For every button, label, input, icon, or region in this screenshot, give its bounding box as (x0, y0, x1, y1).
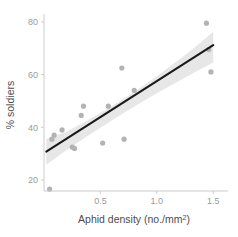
y-axis-tick-label: 40 (28, 123, 38, 133)
data-point (79, 113, 84, 118)
x-axis-tick-label: 1.0 (151, 196, 164, 206)
data-point (59, 127, 64, 132)
plot-background (0, 0, 238, 237)
x-axis-tick-label: 1.5 (207, 196, 220, 206)
data-point (121, 137, 126, 142)
data-point (106, 104, 111, 109)
data-point (72, 146, 77, 151)
data-point (208, 69, 213, 74)
data-point (81, 104, 86, 109)
y-axis-title: % soldiers (4, 81, 16, 129)
x-axis-title-base: Aphid density (no./mm (78, 213, 183, 225)
y-axis-tick-label: 20 (28, 175, 38, 185)
data-point (119, 65, 124, 70)
chart-canvas: 20406080 0.51.01.5 % soldiers Aphid dens… (0, 0, 238, 237)
x-axis-title-tail: ) (186, 213, 190, 225)
data-point (132, 88, 137, 93)
y-axis-tick-label: 60 (28, 70, 38, 80)
y-axis-tick-label: 80 (28, 17, 38, 27)
scatter-plot-figure: 20406080 0.51.01.5 % soldiers Aphid dens… (0, 0, 238, 237)
data-point (52, 133, 57, 138)
x-axis-tick-label: 0.5 (94, 196, 107, 206)
data-point (100, 141, 105, 146)
x-axis-title: Aphid density (no./mm2) (78, 213, 190, 225)
data-point (204, 21, 209, 26)
